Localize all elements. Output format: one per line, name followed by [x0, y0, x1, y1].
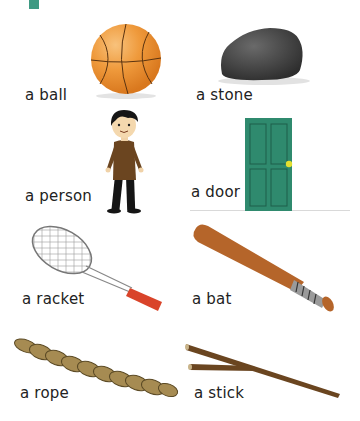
section-marker: [29, 0, 39, 9]
item-label-racket: a racket: [22, 290, 84, 308]
basketball-icon: [86, 20, 166, 100]
item-label-rope: a rope: [20, 384, 69, 402]
door-icon: [245, 118, 295, 213]
item-label-door: a door: [191, 183, 240, 201]
item-label-stick: a stick: [194, 384, 244, 402]
item-label-bat: a bat: [192, 290, 232, 308]
item-label-person: a person: [25, 187, 92, 205]
item-label-stone: a stone: [196, 86, 253, 104]
item-label-ball: a ball: [25, 86, 67, 104]
person-icon: [98, 108, 154, 216]
stone-icon: [212, 24, 312, 89]
